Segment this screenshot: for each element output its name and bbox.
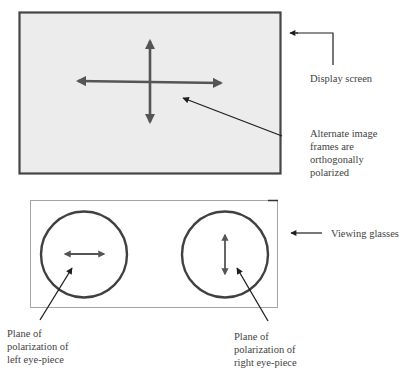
viewing-glasses-label-text: Viewing glasses	[331, 227, 399, 240]
right-eyepiece-label: Plane of polarization of right eye-piece	[234, 330, 297, 369]
alternate-frames-note: Alternate image frames are orthogonally …	[310, 127, 377, 179]
viewing-glasses	[31, 201, 279, 308]
left-label-line-1: Plane of	[7, 327, 69, 340]
left-label-line-2: polarization of	[7, 340, 69, 353]
diagram-canvas	[0, 0, 418, 380]
display-screen-label-text: Display screen	[310, 72, 372, 85]
note-line-2: frames are	[310, 140, 377, 153]
right-label-line-3: right eye-piece	[234, 356, 297, 369]
left-label-line-3: left eye-piece	[7, 353, 69, 366]
note-line-4: polarized	[310, 166, 377, 179]
note-line-1: Alternate image	[310, 127, 377, 140]
note-line-3: orthogonally	[310, 153, 377, 166]
display-screen	[20, 13, 281, 174]
display-screen-callout-line	[296, 33, 333, 65]
display-screen-label: Display screen	[310, 72, 372, 85]
display-screen-callout	[290, 33, 333, 65]
right-label-line-2: polarization of	[234, 343, 297, 356]
viewing-glasses-label: Viewing glasses	[331, 227, 399, 240]
right-label-line-1: Plane of	[234, 330, 297, 343]
left-eyepiece-label: Plane of polarization of left eye-piece	[7, 327, 69, 366]
